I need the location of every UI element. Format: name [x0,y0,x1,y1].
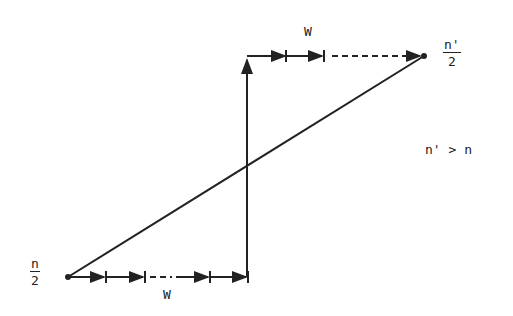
diagram-canvas [0,0,513,316]
left-fraction-denominator: 2 [30,272,40,287]
start-point [65,274,71,280]
top-w-label: W [304,24,312,39]
condition-label: n' > n [425,142,472,157]
left-fraction-numerator: n [30,257,40,272]
bottom-w-label: W [163,287,171,302]
right-fraction: n' 2 [443,38,461,68]
left-fraction: n 2 [30,257,40,287]
right-fraction-denominator: 2 [443,53,461,68]
end-point [421,53,427,59]
right-fraction-numerator: n' [443,38,461,53]
